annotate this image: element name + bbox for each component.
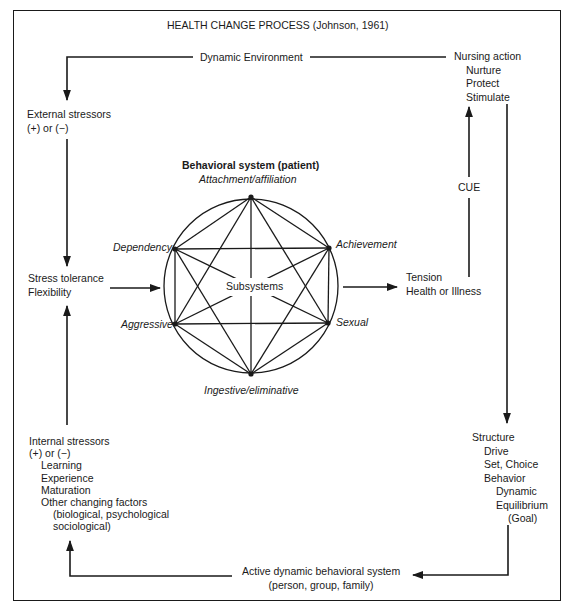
structure-line: Structure: [472, 431, 548, 445]
structure-line: (Goal): [472, 512, 548, 526]
vertex-sexual: [325, 320, 330, 325]
structure-line: Drive: [472, 445, 548, 459]
subsystem-link: [251, 197, 329, 248]
diagram-title: HEALTH CHANGE PROCESS (Johnson, 1961): [167, 19, 389, 33]
subsystem-attachment: Attachment/affiliation: [199, 173, 296, 187]
vertex-attachment: [248, 194, 253, 199]
internal-stressors-line: (+) or (−): [29, 447, 169, 459]
nursing-action-item: Stimulate: [454, 91, 521, 105]
nursing-action-item: Protect: [454, 77, 521, 91]
flexibility-label: Flexibility: [28, 286, 104, 300]
arrow-active-to-internal-stressors: [70, 541, 232, 576]
nursing-action-item: Nurture: [454, 64, 521, 78]
internal-stressors-line: Experience: [29, 472, 169, 484]
nursing-action-block: Nursing action Nurture Protect Stimulate: [454, 50, 521, 104]
structure-block: StructureDriveSet, ChoiceBehaviorDynamic…: [472, 431, 548, 526]
internal-stressors-line: (biological, psychological: [29, 508, 169, 520]
subsystem-link: [175, 323, 328, 324]
active-system-members: (person, group, family): [242, 579, 400, 593]
internal-stressors-block: Internal stressors(+) or (−)LearningExpe…: [29, 435, 169, 533]
internal-stressors-line: Internal stressors: [29, 435, 169, 447]
stress-tolerance-label: Stress tolerance: [28, 272, 104, 286]
subsystem-aggressive: Aggressive: [121, 318, 173, 332]
vertex-dependency: [172, 246, 177, 251]
subsystem-achievement: Achievement: [336, 238, 397, 252]
vertex-achievement: [326, 245, 331, 250]
subsystem-link: [175, 197, 251, 249]
internal-stressors-line: Other changing factors: [29, 496, 169, 508]
external-stressors-block: External stressors (+) or (−): [27, 108, 111, 135]
external-stressors-sign: (+) or (−): [27, 122, 111, 136]
nursing-action-heading: Nursing action: [454, 50, 521, 64]
tension-label: Tension: [406, 271, 481, 285]
subsystem-link: [175, 324, 251, 374]
structure-line: Dynamic: [472, 485, 548, 499]
structure-line: Equilibrium: [472, 499, 548, 513]
behavioral-system-heading: Behavioral system (patient): [182, 159, 319, 173]
subsystem-sexual: Sexual: [336, 316, 368, 330]
subsystem-link: [175, 248, 329, 249]
active-system-label: Active dynamic behavioral system: [242, 565, 400, 579]
subsystems-center-label: Subsystems: [226, 280, 283, 294]
cue-label: CUE: [458, 181, 480, 195]
arrow-goal-to-active-system: [413, 525, 508, 575]
external-stressors-label: External stressors: [27, 108, 111, 122]
internal-stressors-line: sociological): [29, 520, 169, 532]
vertex-ingestive: [248, 371, 253, 376]
structure-line: Set, Choice: [472, 458, 548, 472]
subsystem-link: [328, 248, 329, 323]
structure-line: Behavior: [472, 472, 548, 486]
subsystem-ingestive: Ingestive/eliminative: [204, 384, 299, 398]
label-dynamic-environment: Dynamic Environment: [200, 51, 303, 65]
stress-tolerance-block: Stress tolerance Flexibility: [28, 272, 104, 299]
vertex-aggressive: [172, 321, 177, 326]
internal-stressors-line: Maturation: [29, 484, 169, 496]
subsystem-dependency: Dependency: [113, 241, 172, 255]
subsystem-link: [251, 323, 328, 374]
active-system-block: Active dynamic behavioral system (person…: [242, 565, 400, 592]
health-or-illness-label: Health or Illness: [406, 285, 481, 299]
arrow-environment-to-external-stressors: [67, 57, 193, 100]
internal-stressors-line: Learning: [29, 459, 169, 471]
tension-block: Tension Health or Illness: [406, 271, 481, 298]
